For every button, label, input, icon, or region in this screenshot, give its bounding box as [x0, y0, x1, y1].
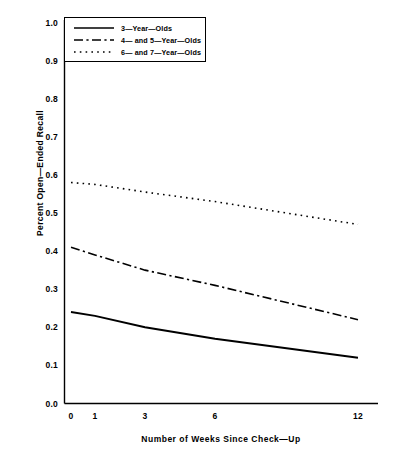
legend-line-sample-dash-dot: [73, 35, 115, 45]
legend-label: 3—Year—Olds: [121, 24, 172, 33]
legend-line-sample-dotted: [73, 47, 115, 57]
x-axis-title: Number of Weeks Since Check—Up: [64, 434, 378, 444]
legend-entry: 3—Year—Olds: [65, 22, 205, 34]
x-axis-tick-labels: 013612: [0, 0, 397, 460]
legend-label: 4— and 5—Year—Olds: [121, 36, 201, 45]
x-tick-label: 3: [130, 411, 160, 421]
x-tick-label: 1: [80, 411, 110, 421]
legend-line-sample-solid: [73, 23, 115, 33]
legend-label: 6— and 7—Year—Olds: [121, 48, 201, 57]
x-tick-label: 12: [343, 411, 373, 421]
x-tick-label: 6: [200, 411, 230, 421]
legend-entry: 6— and 7—Year—Olds: [65, 46, 205, 58]
legend-entry: 4— and 5—Year—Olds: [65, 34, 205, 46]
chart-legend: 3—Year—Olds4— and 5—Year—Olds6— and 7—Ye…: [64, 17, 206, 62]
line-chart-figure: 1.00.90.80.70.60.50.40.30.20.10.0 Percen…: [0, 0, 397, 460]
